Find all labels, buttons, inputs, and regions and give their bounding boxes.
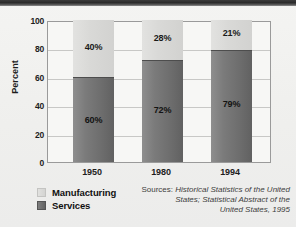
sources-prefix: Sources: bbox=[141, 185, 173, 194]
legend-swatch-services-icon bbox=[37, 201, 46, 210]
x-tick-1950: 1950 bbox=[67, 167, 117, 177]
bar-segment-services-1950[interactable]: 60% bbox=[73, 77, 114, 162]
sources-note: Sources: Historical Statistics of the Un… bbox=[124, 185, 290, 216]
chart-legend: Manufacturing Services bbox=[37, 186, 116, 212]
sources-line-3: United States, 1995 bbox=[124, 205, 290, 215]
bar-label-services-1994: 79% bbox=[211, 99, 252, 109]
chart-figure: Percent 100 80 60 40 20 0 40% 60% 28% bbox=[0, 0, 296, 227]
legend-label-services: Services bbox=[52, 200, 90, 211]
bar-group-1994[interactable]: 21% 79% bbox=[211, 22, 252, 162]
y-axis-title: Percent bbox=[10, 47, 20, 107]
legend-swatch-manufacturing-icon bbox=[37, 188, 46, 197]
y-tick-0: 0 bbox=[22, 158, 44, 168]
bar-label-services-1980: 72% bbox=[142, 105, 183, 115]
x-tick-1994: 1994 bbox=[205, 167, 255, 177]
y-tick-80: 80 bbox=[22, 44, 44, 54]
bar-segment-services-1994[interactable]: 79% bbox=[211, 50, 252, 162]
plot-area: 40% 60% 28% 72% 21% 79% bbox=[47, 21, 271, 163]
bar-group-1950[interactable]: 40% 60% bbox=[73, 22, 114, 162]
x-tick-1980: 1980 bbox=[136, 167, 186, 177]
sources-line-1: Sources: Historical Statistics of the Un… bbox=[124, 185, 290, 195]
sources-line-2: States; Statistical Abstract of the bbox=[124, 195, 290, 205]
bar-segment-services-1980[interactable]: 72% bbox=[142, 60, 183, 162]
bar-segment-manufacturing-1950[interactable]: 40% bbox=[73, 20, 114, 77]
y-tick-60: 60 bbox=[22, 73, 44, 83]
bar-label-manufacturing-1950: 40% bbox=[73, 42, 114, 52]
y-axis-tick-labels: 100 80 60 40 20 0 bbox=[22, 15, 44, 169]
y-tick-100: 100 bbox=[22, 16, 44, 26]
y-tick-40: 40 bbox=[22, 101, 44, 111]
bar-label-manufacturing-1994: 21% bbox=[211, 28, 252, 38]
legend-item-manufacturing[interactable]: Manufacturing bbox=[37, 186, 116, 199]
bar-label-services-1950: 60% bbox=[73, 115, 114, 125]
legend-item-services[interactable]: Services bbox=[37, 199, 116, 212]
y-tick-20: 20 bbox=[22, 130, 44, 140]
bar-segment-manufacturing-1994[interactable]: 21% bbox=[211, 20, 252, 50]
x-axis-tick-labels: 1950 1980 1994 bbox=[47, 167, 271, 181]
bar-label-manufacturing-1980: 28% bbox=[142, 33, 183, 43]
bar-segment-manufacturing-1980[interactable]: 28% bbox=[142, 20, 183, 60]
bar-group-1980[interactable]: 28% 72% bbox=[142, 22, 183, 162]
sources-line-1-title: Historical Statistics of the United bbox=[175, 185, 290, 194]
top-decorative-band bbox=[0, 0, 296, 6]
legend-label-manufacturing: Manufacturing bbox=[52, 187, 116, 198]
